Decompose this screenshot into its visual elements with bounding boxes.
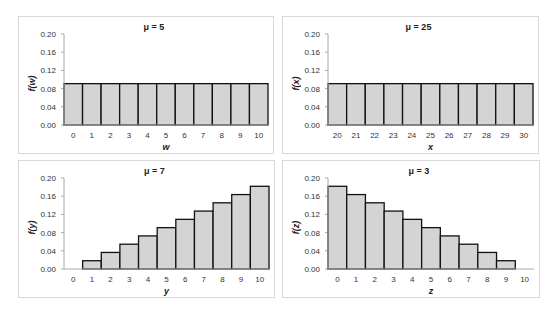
bar xyxy=(83,84,102,125)
y-tick-label: 0.04 xyxy=(304,247,320,256)
y-tick-label: 0.08 xyxy=(304,85,320,94)
x-tick-label: 10 xyxy=(520,275,529,284)
y-tick-label: 0.08 xyxy=(304,229,320,238)
bar xyxy=(440,84,459,125)
x-tick-label: 26 xyxy=(445,131,454,140)
x-tick-label: 8 xyxy=(485,275,490,284)
chart-svg: μ = 50.000.040.080.120.160.20f(w)0123456… xyxy=(19,17,275,155)
y-tick-label: 0.12 xyxy=(304,210,320,219)
x-tick-label: 5 xyxy=(164,131,169,140)
bar xyxy=(157,84,176,125)
x-tick-label: 8 xyxy=(219,131,224,140)
bar xyxy=(347,84,366,125)
x-tick-label: 10 xyxy=(254,131,263,140)
x-tick-label: 29 xyxy=(501,131,510,140)
x-tick-label: 4 xyxy=(145,131,150,140)
x-tick-label: 25 xyxy=(426,131,435,140)
x-tick-label: 27 xyxy=(463,131,472,140)
bar xyxy=(478,252,497,269)
bar xyxy=(403,84,422,125)
chart-panel-y: μ = 70.000.040.080.120.160.20f(y)0123456… xyxy=(18,160,275,298)
x-tick-label: 1 xyxy=(90,131,95,140)
y-tick-label: 0.20 xyxy=(40,174,56,183)
x-tick-label: 3 xyxy=(127,275,132,284)
chart-title: μ = 3 xyxy=(409,166,430,176)
bar xyxy=(497,261,516,269)
x-tick-label: 21 xyxy=(352,131,361,140)
y-tick-label: 0.00 xyxy=(40,121,56,130)
bar xyxy=(365,203,384,269)
y-tick-label: 0.20 xyxy=(304,30,320,39)
x-tick-label: 1 xyxy=(354,275,359,284)
x-tick-label: 2 xyxy=(373,275,378,284)
x-tick-label: 6 xyxy=(182,131,187,140)
bar xyxy=(514,84,533,125)
x-axis-label: w xyxy=(162,142,170,152)
bar xyxy=(120,244,139,269)
x-tick-label: 7 xyxy=(201,131,206,140)
y-tick-label: 0.16 xyxy=(304,192,320,201)
bar xyxy=(83,261,102,269)
x-tick-label: 7 xyxy=(466,275,471,284)
x-tick-label: 5 xyxy=(429,275,434,284)
x-tick-label: 30 xyxy=(519,131,528,140)
bar xyxy=(175,84,194,125)
bar xyxy=(232,195,251,269)
bar xyxy=(213,203,232,269)
bar xyxy=(477,84,496,125)
chart-panel-x: μ = 250.000.040.080.120.160.20f(x)202122… xyxy=(282,16,539,154)
y-tick-label: 0.04 xyxy=(40,103,56,112)
x-tick-label: 9 xyxy=(239,275,244,284)
y-tick-label: 0.12 xyxy=(304,66,320,75)
bar xyxy=(101,252,120,269)
x-tick-label: 3 xyxy=(391,275,396,284)
chart-title: μ = 5 xyxy=(144,22,165,32)
bar xyxy=(440,236,459,269)
bar xyxy=(157,228,176,269)
chart-title: μ = 25 xyxy=(406,22,432,32)
y-tick-label: 0.08 xyxy=(40,85,56,94)
x-tick-label: 4 xyxy=(146,275,151,284)
y-tick-label: 0.16 xyxy=(304,48,320,57)
x-tick-label: 0 xyxy=(335,275,340,284)
x-tick-label: 23 xyxy=(389,131,398,140)
y-axis-label: f(w) xyxy=(27,76,37,92)
bar xyxy=(421,84,440,125)
x-tick-label: 3 xyxy=(127,131,132,140)
y-tick-label: 0.16 xyxy=(40,192,56,201)
x-tick-label: 9 xyxy=(238,131,243,140)
bar xyxy=(328,186,347,269)
x-tick-label: 6 xyxy=(183,275,188,284)
bar xyxy=(328,84,347,125)
x-tick-label: 4 xyxy=(410,275,415,284)
bar xyxy=(347,195,366,269)
y-axis-label: f(z) xyxy=(291,221,301,235)
bar xyxy=(458,84,477,125)
y-tick-label: 0.00 xyxy=(304,265,320,274)
x-tick-label: 8 xyxy=(220,275,225,284)
chart-svg: μ = 30.000.040.080.120.160.20f(z)0123456… xyxy=(283,161,541,299)
x-tick-label: 7 xyxy=(202,275,207,284)
chart-panel-w: μ = 50.000.040.080.120.160.20f(w)0123456… xyxy=(18,16,274,154)
x-tick-label: 10 xyxy=(255,275,264,284)
bar xyxy=(101,84,120,125)
x-tick-label: 2 xyxy=(108,131,113,140)
x-tick-label: 22 xyxy=(370,131,379,140)
x-axis-label: x xyxy=(427,142,434,152)
bar xyxy=(365,84,384,125)
y-tick-label: 0.20 xyxy=(304,174,320,183)
bar xyxy=(176,219,195,269)
x-axis-label: z xyxy=(428,286,434,296)
bar xyxy=(138,84,157,125)
chart-title: μ = 7 xyxy=(144,166,165,176)
bar xyxy=(459,244,478,269)
y-tick-label: 0.04 xyxy=(40,247,56,256)
bar xyxy=(139,236,158,269)
x-tick-label: 28 xyxy=(482,131,491,140)
x-axis-label: y xyxy=(163,286,170,296)
y-tick-label: 0.08 xyxy=(40,229,56,238)
bar xyxy=(64,84,83,125)
chart-svg: μ = 70.000.040.080.120.160.20f(y)0123456… xyxy=(19,161,276,299)
y-tick-label: 0.20 xyxy=(40,30,56,39)
x-tick-label: 2 xyxy=(108,275,113,284)
